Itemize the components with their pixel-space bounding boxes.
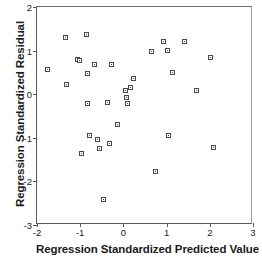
y-tick-mark <box>33 138 37 139</box>
data-point <box>194 88 199 93</box>
data-point <box>170 70 175 75</box>
data-point <box>45 67 50 72</box>
data-point <box>182 39 187 44</box>
data-point <box>97 146 102 151</box>
data-point <box>161 39 166 44</box>
data-point <box>95 137 100 142</box>
y-tick-mark <box>33 7 37 8</box>
y-tick-label: 0 <box>27 89 32 100</box>
x-tick-label: 0 <box>121 227 126 238</box>
data-point <box>79 151 84 156</box>
y-tick-label: -3 <box>24 220 32 231</box>
y-tick-mark <box>33 181 37 182</box>
data-point <box>64 82 69 87</box>
y-axis-title: Regression Standardized Residual <box>14 4 26 224</box>
data-point <box>101 197 106 202</box>
data-point <box>63 35 68 40</box>
data-point <box>128 85 133 90</box>
y-tick-label: -1 <box>24 132 32 143</box>
x-tick-label: 2 <box>207 227 212 238</box>
x-tick-label: -1 <box>76 227 84 238</box>
data-point <box>124 95 129 100</box>
scatter-plot: Regression Standardized Residual -3-2-10… <box>0 0 262 257</box>
data-point <box>92 62 97 67</box>
x-tick-label: 1 <box>164 227 169 238</box>
data-point <box>107 141 112 146</box>
data-point <box>85 101 90 106</box>
data-point <box>131 76 136 81</box>
x-tick-label: 3 <box>250 227 255 238</box>
y-tick-label: -2 <box>24 176 32 187</box>
data-point <box>153 169 158 174</box>
data-point <box>87 133 92 138</box>
y-tick-label: 2 <box>27 2 32 13</box>
data-point <box>165 48 170 53</box>
data-point <box>125 101 130 106</box>
data-point <box>84 32 89 37</box>
y-tick-mark <box>33 51 37 52</box>
data-point <box>77 58 82 63</box>
y-tick-mark <box>33 94 37 95</box>
data-point <box>149 49 154 54</box>
data-point <box>115 122 120 127</box>
x-tick-label: -2 <box>33 227 41 238</box>
y-tick-label: 1 <box>27 45 32 56</box>
data-point <box>109 62 114 67</box>
data-point <box>211 145 216 150</box>
data-point <box>208 55 213 60</box>
plot-area: -3-2-1012 -2-10123 <box>36 6 252 224</box>
x-axis-title: Regression Standardized Predicted Value <box>36 243 252 255</box>
data-point <box>166 133 171 138</box>
data-point <box>105 100 110 105</box>
data-point <box>85 71 90 76</box>
